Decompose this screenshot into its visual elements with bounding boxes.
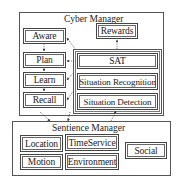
social-node: Social	[125, 142, 167, 159]
motion-node: Motion	[20, 154, 63, 170]
situation-recognition-node: Situation Recognition	[77, 73, 158, 90]
sentience-manager-title: Sentience Manager	[52, 123, 125, 133]
time-service-node: TimeService	[65, 134, 119, 151]
situation-detection-node: Situation Detection	[77, 93, 158, 110]
location-node: Location	[20, 135, 63, 152]
plan-node: Plan	[23, 52, 66, 68]
environment-node: Environment	[65, 153, 119, 170]
sat-node: SAT	[77, 53, 158, 69]
learn-node: Learn	[23, 72, 66, 88]
recall-node: Recall	[23, 92, 66, 108]
rewards-node: Rewards	[96, 23, 138, 39]
aware-node: Aware	[23, 28, 66, 44]
